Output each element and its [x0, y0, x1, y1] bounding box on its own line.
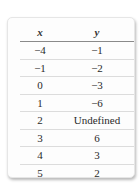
header-row: x y — [20, 23, 134, 42]
cell-y: 2 — [60, 164, 134, 181]
cell-y: −3 — [60, 77, 134, 95]
table-row: −1 −2 — [20, 59, 134, 77]
cell-x: 2 — [20, 112, 60, 130]
cell-y: −6 — [60, 94, 134, 112]
cell-x: 5 — [20, 164, 60, 181]
table-card: x y −4 −1 −1 −2 0 −3 1 −6 2 Unde — [7, 17, 135, 178]
cell-y: 3 — [60, 147, 134, 165]
header-x: x — [20, 23, 60, 42]
cell-x: 3 — [20, 129, 60, 147]
table-row: 4 3 — [20, 147, 134, 165]
table-row: 1 −6 — [20, 94, 134, 112]
table-row: 0 −3 — [20, 77, 134, 95]
table-row: 5 2 — [20, 164, 134, 181]
cell-x: −4 — [20, 42, 60, 60]
table-row: −4 −1 — [20, 42, 134, 60]
table-row: 3 6 — [20, 129, 134, 147]
cell-y: Undefined — [60, 112, 134, 130]
cell-y: 6 — [60, 129, 134, 147]
cell-y: −2 — [60, 59, 134, 77]
cell-x: 0 — [20, 77, 60, 95]
table-row: 2 Undefined — [20, 112, 134, 130]
header-y: y — [60, 23, 134, 42]
cell-x: −1 — [20, 59, 60, 77]
cell-x: 1 — [20, 94, 60, 112]
cell-x: 4 — [20, 147, 60, 165]
cell-y: −1 — [60, 42, 134, 60]
xy-table: x y −4 −1 −1 −2 0 −3 1 −6 2 Unde — [20, 23, 134, 181]
